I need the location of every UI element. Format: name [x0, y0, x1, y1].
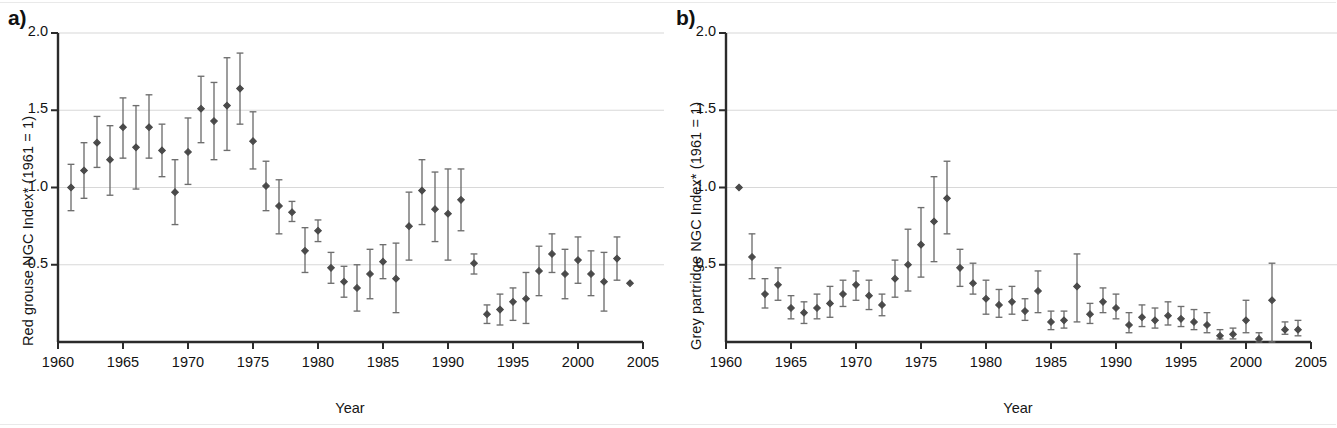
data-point-marker	[944, 195, 951, 202]
data-point-group	[853, 271, 860, 300]
data-point-group	[1269, 263, 1276, 342]
data-point-marker	[445, 210, 452, 217]
data-point-marker	[393, 275, 400, 282]
data-point-group	[736, 184, 743, 191]
data-point-marker	[1204, 322, 1211, 329]
data-point-marker	[549, 251, 556, 258]
data-point-marker	[588, 271, 595, 278]
data-point-marker	[341, 278, 348, 285]
data-point-marker	[510, 299, 517, 306]
data-point-marker	[289, 209, 296, 216]
data-point-marker	[224, 102, 231, 109]
data-point-group	[1165, 302, 1172, 325]
data-point-group	[419, 160, 426, 225]
data-point-marker	[1074, 283, 1081, 290]
y-tick-label: 0.5	[4, 255, 48, 271]
y-tick-label: 1.5	[672, 100, 716, 116]
x-tick-label: 1995	[1155, 354, 1207, 370]
data-point-marker	[107, 156, 114, 163]
data-point-group	[588, 251, 595, 296]
data-point-group	[263, 161, 270, 210]
x-tick-label: 1975	[227, 354, 279, 370]
data-point-group	[315, 220, 322, 242]
x-tick-label: 1985	[1025, 354, 1077, 370]
data-point-group	[1243, 300, 1250, 332]
panel-b-plot-area: 0.51.01.52.01960196519701975198019851990…	[668, 0, 1336, 428]
data-point-group	[996, 289, 1003, 317]
data-point-marker	[1178, 316, 1185, 323]
data-point-marker	[1243, 317, 1250, 324]
data-point-group	[1256, 333, 1263, 342]
x-tick-label: 1960	[700, 354, 752, 370]
y-tick-label: 2.0	[4, 23, 48, 39]
data-point-group	[445, 169, 452, 260]
data-point-marker	[1061, 317, 1068, 324]
x-tick-label: 1965	[97, 354, 149, 370]
data-point-group	[1061, 311, 1068, 328]
x-tick-label: 1965	[765, 354, 817, 370]
data-point-group	[1009, 286, 1016, 314]
data-point-marker	[68, 184, 75, 191]
data-point-marker	[775, 282, 782, 289]
data-point-marker	[237, 85, 244, 92]
data-point-group	[250, 112, 257, 169]
data-point-group	[1230, 328, 1237, 339]
data-point-marker	[840, 291, 847, 298]
data-point-group	[562, 249, 569, 298]
data-point-group	[81, 143, 88, 199]
data-point-group	[866, 280, 873, 309]
data-point-marker	[172, 189, 179, 196]
data-point-marker	[562, 271, 569, 278]
data-point-marker	[853, 282, 860, 289]
data-point-marker	[159, 147, 166, 154]
data-point-marker	[736, 184, 743, 191]
data-point-marker	[1152, 317, 1159, 324]
data-point-marker	[575, 257, 582, 264]
data-point-group	[749, 234, 756, 279]
data-point-marker	[601, 278, 608, 285]
data-point-marker	[814, 305, 821, 312]
data-point-marker	[458, 197, 465, 204]
data-point-group	[788, 296, 795, 319]
panel-b: b) Grey partridge NGC Index* (1961 = 1) …	[668, 0, 1336, 428]
data-point-marker	[328, 265, 335, 272]
data-point-marker	[614, 255, 621, 262]
data-point-group	[762, 279, 769, 308]
data-point-group	[367, 249, 374, 298]
panel-a-plot-area: 0.51.01.52.01960196519701975198019851990…	[0, 0, 668, 428]
data-point-group	[380, 245, 387, 279]
data-point-group	[1178, 306, 1185, 326]
data-point-group	[1295, 320, 1302, 335]
data-point-marker	[957, 265, 964, 272]
data-point-group	[510, 288, 517, 320]
data-point-group	[68, 164, 75, 210]
data-point-group	[1087, 303, 1094, 323]
data-point-group	[133, 106, 140, 189]
data-point-group	[627, 280, 634, 287]
data-point-marker	[1048, 319, 1055, 326]
data-point-marker	[749, 254, 756, 261]
data-point-group	[1139, 305, 1146, 327]
data-point-group	[302, 228, 309, 273]
data-point-group	[536, 246, 543, 295]
data-point-marker	[523, 295, 530, 302]
y-tick-label: 1.0	[672, 178, 716, 194]
data-point-group	[918, 208, 925, 278]
data-point-group	[107, 126, 114, 196]
x-tick-label: 1980	[960, 354, 1012, 370]
x-tick-label: 2005	[1285, 354, 1337, 370]
panel-a: a) Red grouse NGC Index* (1961 = 1) Year…	[0, 0, 668, 428]
data-point-group	[471, 254, 478, 274]
x-tick-label: 1990	[1090, 354, 1142, 370]
data-point-marker	[302, 248, 309, 255]
data-point-group	[970, 263, 977, 294]
data-point-marker	[1295, 326, 1302, 333]
data-point-marker	[970, 280, 977, 287]
data-point-marker	[406, 223, 413, 230]
data-point-group	[393, 243, 400, 313]
data-point-group	[94, 116, 101, 167]
y-tick-label: 1.5	[4, 100, 48, 116]
data-point-group	[289, 201, 296, 221]
data-point-group	[198, 76, 205, 142]
